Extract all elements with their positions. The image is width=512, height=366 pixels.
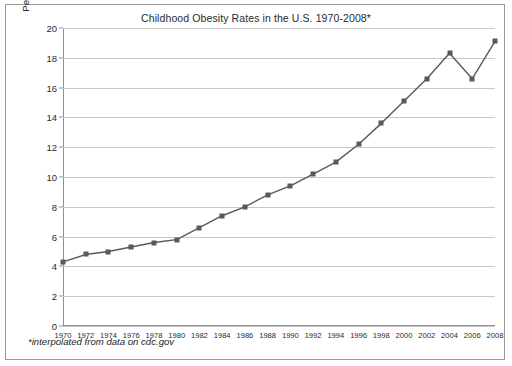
- y-tick-label: 14: [46, 112, 57, 123]
- y-tick-label: 10: [46, 172, 57, 183]
- y-tick-label: 8: [52, 201, 57, 212]
- x-tick-label: 1988: [259, 331, 276, 340]
- data-point: [447, 51, 452, 56]
- data-point: [174, 237, 179, 242]
- data-point: [242, 204, 247, 209]
- y-tick-label: 12: [46, 142, 57, 153]
- data-point: [265, 192, 270, 197]
- y-tick-label: 16: [46, 82, 57, 93]
- data-point: [470, 76, 475, 81]
- series-line: [63, 28, 495, 326]
- x-tick-label: 1990: [282, 331, 299, 340]
- x-tick-label: 2000: [396, 331, 413, 340]
- y-tick-label: 2: [52, 291, 57, 302]
- data-point: [129, 245, 134, 250]
- x-tick-label: 2004: [441, 331, 458, 340]
- x-tick-label: 1984: [214, 331, 231, 340]
- data-point: [402, 99, 407, 104]
- data-point: [288, 183, 293, 188]
- data-point: [379, 121, 384, 126]
- chart-title: Childhood Obesity Rates in the U.S. 1970…: [6, 12, 506, 24]
- data-point: [424, 76, 429, 81]
- x-tick-label: 2006: [464, 331, 481, 340]
- chart-footnote: *interpolated from data on cdc.gov: [28, 336, 174, 347]
- data-point: [83, 252, 88, 257]
- data-point: [61, 259, 66, 264]
- data-point: [220, 213, 225, 218]
- x-tick-label: 1994: [327, 331, 344, 340]
- data-point: [197, 225, 202, 230]
- data-point: [493, 39, 498, 44]
- x-tick-label: 1996: [350, 331, 367, 340]
- y-tick-label: 20: [46, 23, 57, 34]
- data-point: [311, 172, 316, 177]
- y-tick-label: 0: [52, 321, 57, 332]
- data-point: [356, 142, 361, 147]
- data-point: [106, 249, 111, 254]
- x-tick-label: 1982: [191, 331, 208, 340]
- y-tick-label: 4: [52, 261, 57, 272]
- x-tick-label: 1998: [373, 331, 390, 340]
- plot-area: 20181614121086420 1970197219741976197819…: [63, 28, 495, 326]
- y-axis-label: Percentage of children ages 6-19: [20, 0, 31, 61]
- chart-frame: Childhood Obesity Rates in the U.S. 1970…: [5, 4, 505, 360]
- data-point: [333, 160, 338, 165]
- x-tick-label: 2008: [487, 331, 504, 340]
- x-tick-label: 1986: [236, 331, 253, 340]
- x-tick-label: 2002: [418, 331, 435, 340]
- y-tick-label: 6: [52, 231, 57, 242]
- gridline: [63, 326, 495, 327]
- data-point: [151, 240, 156, 245]
- y-tick-label: 18: [46, 52, 57, 63]
- x-tick-label: 1992: [305, 331, 322, 340]
